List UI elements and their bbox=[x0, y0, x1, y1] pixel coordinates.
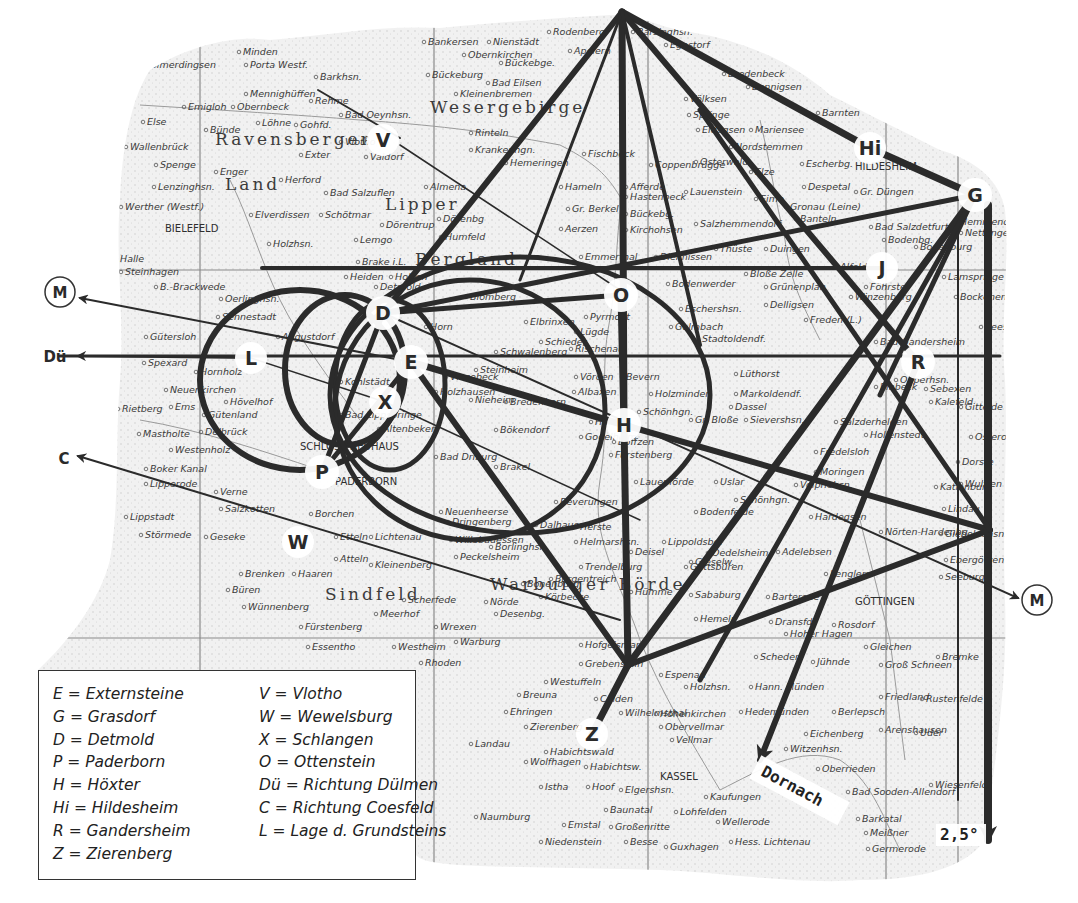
node-g: G bbox=[958, 178, 992, 212]
place-name: Elgershsn. bbox=[625, 784, 674, 795]
place-name: Bückebge. bbox=[505, 57, 555, 68]
region-name: Land bbox=[225, 174, 280, 194]
place-name: Rinteln bbox=[475, 127, 509, 138]
place-name: Dassel bbox=[735, 401, 767, 412]
node-d: D bbox=[366, 296, 400, 330]
place-name: Hemeringen bbox=[510, 157, 569, 168]
place-name: Lauenstein bbox=[690, 186, 742, 197]
place-name: Ehringen bbox=[510, 706, 553, 717]
place-name: Bodenwerder bbox=[672, 278, 737, 289]
place-name: Warburg bbox=[460, 636, 501, 647]
place-name: Zierenberg bbox=[529, 721, 583, 732]
place-name: Hornholz bbox=[200, 366, 243, 377]
legend-entry: Z = Zierenberg bbox=[53, 843, 191, 866]
place-name: Hohenkirchen bbox=[660, 708, 726, 719]
node-j: J bbox=[866, 252, 898, 284]
legend-entry: Hi = Hildesheim bbox=[53, 797, 191, 820]
place-name: Bad Driburg bbox=[440, 451, 497, 462]
place-name: Wolfhagen bbox=[530, 756, 581, 767]
direction-label: Dü bbox=[43, 348, 66, 366]
place-name: Mariensee bbox=[755, 124, 804, 135]
place-name: Hemmendorf bbox=[960, 216, 1024, 227]
node-e: E bbox=[394, 345, 428, 379]
legend-entry: V = Vlotho bbox=[259, 683, 446, 706]
node-p: P bbox=[305, 455, 339, 489]
place-name: Spexard bbox=[148, 357, 188, 368]
place-name: Bückeburg bbox=[432, 69, 483, 80]
node-v: V bbox=[367, 124, 399, 156]
direction-m-right: M bbox=[1022, 585, 1052, 615]
legend-entry: C = Richtung Coesfeld bbox=[259, 797, 446, 820]
place-name: Nienstädt bbox=[493, 36, 540, 47]
place-name: Berlepsch bbox=[838, 706, 885, 717]
place-name: Obernbeck bbox=[237, 101, 289, 112]
place-name: Wulften bbox=[965, 478, 1002, 489]
direction-m-left: M bbox=[45, 277, 75, 307]
place-name: Borchen bbox=[315, 508, 354, 519]
place-name: Holzhsn. bbox=[690, 681, 731, 692]
place-name: Dörentrup bbox=[386, 219, 435, 230]
place-name: Emigloh bbox=[188, 101, 226, 112]
direction-label: C bbox=[58, 450, 69, 468]
place-name: Desenbg. bbox=[500, 608, 545, 619]
place-name: Wrexen bbox=[440, 621, 476, 632]
place-name: Breuna bbox=[523, 689, 557, 700]
direction-c: C bbox=[58, 450, 69, 468]
place-name: Boker Kanal bbox=[150, 463, 207, 474]
place-name: Steinhagen bbox=[125, 266, 179, 277]
place-name: Uslar bbox=[720, 476, 745, 487]
node-label: G bbox=[967, 184, 983, 206]
place-name: Krankenhgn. bbox=[475, 144, 535, 155]
place-name: Volmerdingsen bbox=[145, 59, 216, 70]
region-name: Sindfeld bbox=[325, 584, 421, 604]
place-name: Haaren bbox=[298, 568, 333, 579]
place-name: Aerzen bbox=[564, 223, 598, 234]
node-label: D bbox=[375, 302, 391, 324]
place-name: Scheden bbox=[760, 651, 801, 662]
place-name: Gr. Düngen bbox=[860, 186, 914, 197]
place-name: Hastenbeck bbox=[630, 191, 687, 202]
place-name: Mastholte bbox=[143, 428, 190, 439]
place-name: Löhne bbox=[262, 117, 291, 128]
place-name: Lügde bbox=[580, 326, 609, 337]
place-name: Wallenbrück bbox=[130, 141, 189, 152]
place-name: Despetal bbox=[808, 181, 851, 192]
place-name: Emstal bbox=[568, 819, 601, 830]
place-name: Naumburg bbox=[480, 811, 530, 822]
place-name: Lohfelden bbox=[680, 806, 727, 817]
node-l: L bbox=[235, 342, 267, 374]
legend-entry: E = Externsteine bbox=[53, 683, 191, 706]
node-o: O bbox=[604, 278, 638, 312]
node-label: X bbox=[378, 391, 393, 413]
place-name: Hollenstedt bbox=[870, 429, 926, 440]
place-name: Rietberg bbox=[122, 403, 163, 414]
legend-entry: P = Paderborn bbox=[53, 751, 191, 774]
place-name: Rustenfelde bbox=[926, 693, 983, 704]
place-name: Halle bbox=[120, 253, 144, 264]
place-name: Heiden bbox=[350, 271, 384, 282]
place-name: Bad Salzdetfurth bbox=[875, 221, 954, 232]
place-name: Gütenland bbox=[208, 409, 258, 420]
place-name: Rischenau bbox=[575, 343, 624, 354]
place-name: Herford bbox=[285, 174, 322, 185]
place-name: Spenge bbox=[160, 159, 196, 170]
node-h: H bbox=[607, 408, 641, 442]
city-name: GÖTTINGEN bbox=[855, 595, 915, 607]
place-name: Jühnde bbox=[815, 656, 850, 667]
place-name: Bremke bbox=[942, 651, 979, 662]
legend-column-right: V = Vlotho W = Wewelsburg X = Schlangen … bbox=[259, 683, 446, 843]
node-x: X bbox=[369, 386, 401, 418]
place-name: Rodenberg bbox=[553, 26, 605, 37]
place-name: Mennighüffen bbox=[250, 88, 316, 99]
place-name: Baunatal bbox=[610, 804, 653, 815]
place-name: Markoldendf. bbox=[740, 388, 802, 399]
place-name: Uder bbox=[920, 727, 944, 738]
legend-entry: H = Höxter bbox=[53, 774, 191, 797]
place-name: Landau bbox=[475, 738, 510, 749]
place-name: Barnten bbox=[822, 107, 860, 118]
legend-entry: W = Wewelsburg bbox=[259, 706, 446, 729]
place-name: Verne bbox=[220, 486, 248, 497]
place-name: Hameln bbox=[565, 181, 602, 192]
place-name: Wiesenfeld bbox=[935, 779, 989, 790]
place-name: Lamspringe bbox=[948, 271, 1004, 282]
